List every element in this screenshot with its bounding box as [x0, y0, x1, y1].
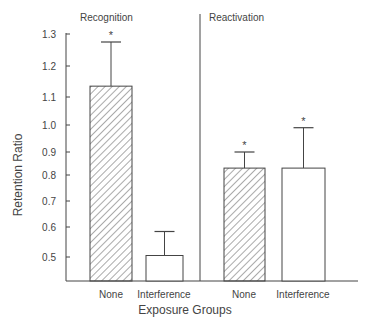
y-tick-label: 1.0 — [42, 120, 56, 131]
significance-marker: * — [242, 139, 247, 151]
bar-reactivation-interference — [282, 168, 325, 281]
y-tick-label: 0.7 — [42, 196, 56, 207]
bar-group: * — [282, 115, 325, 281]
bar-recognition-interference — [146, 256, 183, 282]
significance-marker: * — [109, 29, 114, 41]
y-tick-label: 0.9 — [42, 147, 56, 158]
panel-title-recognition: Recognition — [80, 12, 133, 23]
bar-reactivation-none — [224, 168, 265, 281]
category-label: None — [99, 289, 123, 300]
x-axis-title: Exposure Groups — [138, 303, 231, 317]
significance-marker: * — [301, 115, 306, 127]
bar-recognition-none — [90, 86, 132, 281]
y-tick-label: 0.6 — [42, 222, 56, 233]
retention-ratio-chart: 0.50.60.70.80.91.01.11.21.3 *** Recognit… — [0, 0, 371, 332]
category-label: Interference — [276, 289, 330, 300]
y-tick-label: 1.2 — [42, 61, 56, 72]
y-tick-label: 1.3 — [42, 29, 56, 40]
y-tick-label: 0.5 — [42, 252, 56, 263]
bar-group — [146, 232, 183, 282]
y-axis-title: Retention Ratio — [11, 133, 25, 216]
y-tick-label: 0.8 — [42, 170, 56, 181]
bar-group: * — [224, 139, 265, 281]
y-tick-label: 1.1 — [42, 92, 56, 103]
category-label: None — [232, 289, 256, 300]
bar-group: * — [90, 29, 132, 281]
panel-title-reactivation: Reactivation — [209, 12, 264, 23]
bars: *** — [90, 29, 325, 281]
category-label: Interference — [137, 289, 191, 300]
